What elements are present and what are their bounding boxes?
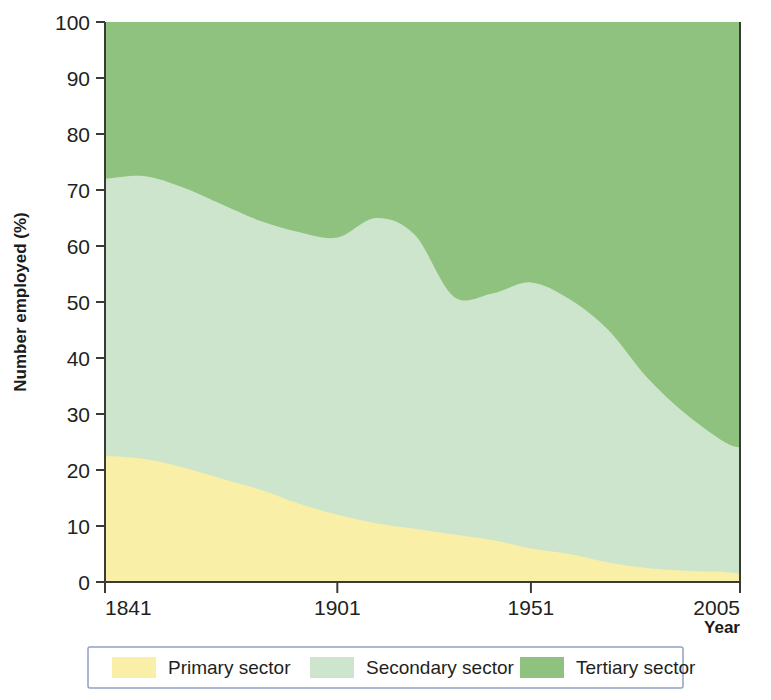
y-tick-label: 90 — [67, 67, 90, 90]
legend-label: Secondary sector — [366, 657, 515, 678]
legend-swatch — [520, 657, 564, 678]
y-tick-label: 100 — [55, 11, 90, 34]
legend-swatch — [112, 657, 156, 678]
legend: Primary sectorSecondary sectorTertiary s… — [88, 647, 696, 688]
y-tick-label: 20 — [67, 459, 90, 482]
legend-label: Primary sector — [168, 657, 291, 678]
x-axis-title: Year — [704, 618, 740, 637]
x-tick-label: 2005 — [693, 596, 740, 619]
y-tick-label: 0 — [78, 571, 90, 594]
employment-by-sector-area-chart: 0102030405060708090100 1841190119512005 … — [0, 0, 771, 700]
y-tick-label: 50 — [67, 291, 90, 314]
x-tick-label: 1951 — [508, 596, 555, 619]
x-tick-label: 1901 — [314, 596, 361, 619]
y-axis-title: Number employed (%) — [11, 212, 30, 391]
plot-area — [105, 22, 740, 582]
y-tick-label: 70 — [67, 179, 90, 202]
legend-swatch — [310, 657, 354, 678]
y-tick-label: 60 — [67, 235, 90, 258]
x-tick-label: 1841 — [105, 596, 152, 619]
legend-label: Tertiary sector — [576, 657, 696, 678]
y-tick-label: 40 — [67, 347, 90, 370]
y-tick-label: 80 — [67, 123, 90, 146]
y-tick-label: 10 — [67, 515, 90, 538]
y-tick-label: 30 — [67, 403, 90, 426]
